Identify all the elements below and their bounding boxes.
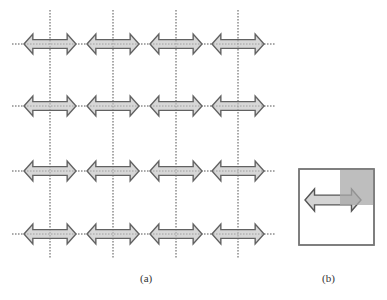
caption-panel-a: (a): [140, 272, 152, 284]
gray-overlay-square: [340, 169, 374, 205]
caption-panel-b: (b): [322, 272, 335, 284]
figure-canvas: [0, 0, 387, 300]
